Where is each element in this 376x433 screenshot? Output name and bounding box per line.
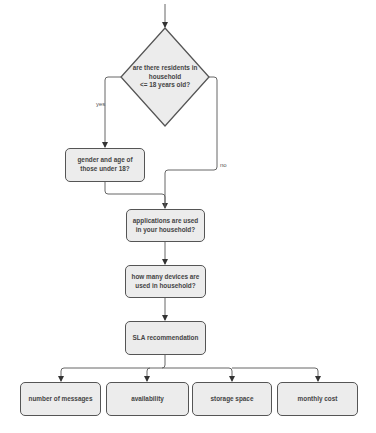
decision-label: are there residents in household <= 18 y… bbox=[125, 64, 205, 90]
node-sla-recommendation: SLA recommendation bbox=[125, 321, 206, 355]
node-monthly-cost: monthly cost bbox=[277, 382, 358, 416]
edge-sla-to-storage bbox=[165, 368, 232, 381]
edge-sla-trunk bbox=[162, 355, 165, 368]
edge-gender-to-applications bbox=[105, 182, 165, 208]
edge-label-no: no bbox=[220, 162, 227, 168]
node-availability: availability bbox=[106, 382, 189, 416]
node-gender-age: gender and age of those under 18? bbox=[65, 148, 145, 182]
decision-label-line3: <= 18 years old? bbox=[125, 81, 205, 90]
edge-label-yes: yes bbox=[96, 101, 105, 107]
decision-label-line2: household bbox=[125, 73, 205, 82]
node-devices: how many devices are used in household? bbox=[125, 265, 206, 298]
edge-yes bbox=[105, 77, 121, 147]
node-applications: applications are used in your household? bbox=[126, 209, 205, 242]
node-storage-space: storage space bbox=[192, 382, 272, 416]
decision-label-line1: are there residents in bbox=[125, 64, 205, 73]
edge-sla-to-messages bbox=[61, 368, 165, 381]
node-number-of-messages: number of messages bbox=[20, 382, 101, 416]
edge-sla-to-cost bbox=[232, 368, 318, 381]
edge-sla-to-availability bbox=[147, 368, 150, 381]
